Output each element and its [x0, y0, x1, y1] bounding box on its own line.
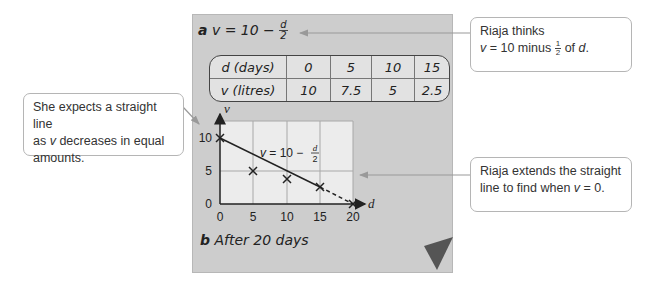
- page-curl: [424, 237, 453, 270]
- svg-text:d: d: [313, 143, 318, 153]
- svg-text:20: 20: [346, 210, 360, 224]
- callout-text: amounts.: [33, 150, 174, 167]
- callout-left: She expects a straight line as v decreas…: [23, 93, 184, 156]
- svg-text:15: 15: [313, 210, 327, 224]
- callout-text: line to find when v = 0.: [480, 180, 622, 197]
- svg-text:10: 10: [199, 131, 213, 145]
- part-b-label: b: [200, 232, 210, 248]
- callout-text: Riaja extends the straight: [480, 163, 622, 180]
- callout-text: v = 10 minus 12 of d.: [480, 40, 622, 57]
- callout-top-right: Riaja thinks v = 10 minus 12 of d.: [470, 17, 632, 72]
- svg-text:10: 10: [280, 210, 294, 224]
- callout-bottom-right: Riaja extends the straight line to find …: [470, 157, 632, 212]
- y-axis-label: v: [224, 101, 230, 116]
- answer-text: After 20 days: [214, 232, 308, 248]
- svg-text:2: 2: [312, 154, 317, 164]
- svg-text:5: 5: [250, 210, 257, 224]
- line-annotation: v = 10 −: [260, 146, 303, 160]
- callout-text: She expects a straight line: [33, 99, 174, 133]
- part-b-answer: b After 20 days: [200, 232, 309, 248]
- svg-text:0: 0: [217, 210, 224, 224]
- connector-arrow-left: [183, 107, 199, 124]
- x-axis-label: d: [368, 196, 375, 211]
- callout-text: as v decreases in equal: [33, 133, 174, 150]
- callout-text: Riaja thinks: [480, 23, 622, 40]
- svg-text:0: 0: [205, 197, 212, 211]
- svg-text:5: 5: [205, 164, 212, 178]
